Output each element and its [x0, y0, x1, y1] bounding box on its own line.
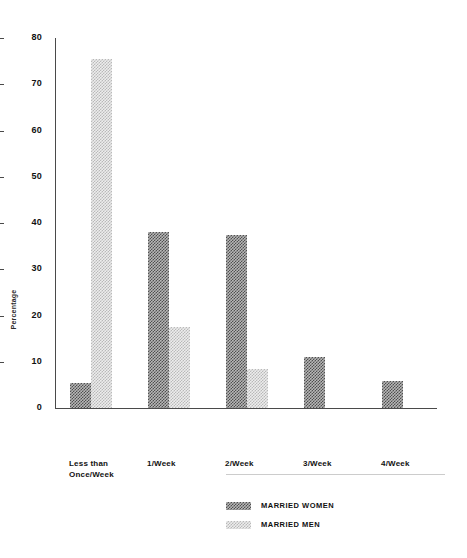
- chart-legend: MARRIED WOMENMARRIED MEN: [226, 496, 446, 534]
- category-label: Less thanOnce/Week: [69, 458, 159, 480]
- y-tick-label: 70: [31, 78, 42, 88]
- y-tick-label: 40: [31, 217, 42, 227]
- category-label: 3/Week: [303, 458, 393, 469]
- category-label: 2/Week: [225, 458, 315, 469]
- light-checker-swatch: [226, 521, 251, 529]
- bar-married-men[interactable]: [247, 369, 268, 408]
- legend-item-label: MARRIED WOMEN: [261, 501, 334, 510]
- y-tick-label: 10: [31, 356, 42, 366]
- bar-chart-figure: Percentage 01020304050607080 Less thanOn…: [0, 0, 467, 558]
- y-tick-mark: [0, 38, 4, 39]
- category-label: 1/Week: [147, 458, 237, 469]
- category-label-line: 4/Week: [381, 458, 467, 469]
- category-label-line: Once/Week: [69, 469, 159, 480]
- bar-married-women[interactable]: [226, 235, 247, 408]
- y-tick-mark: [0, 84, 4, 85]
- legend-separator-rule: [226, 474, 445, 475]
- plot-area: 01020304050607080 Less thanOnce/Week1/We…: [56, 38, 437, 408]
- category-label-line: Less than: [69, 458, 159, 469]
- y-tick-mark: [0, 177, 4, 178]
- y-tick-mark: [0, 269, 4, 270]
- y-tick-label: 50: [31, 171, 42, 181]
- y-tick-label: 0: [37, 402, 42, 412]
- bar-married-women[interactable]: [70, 383, 91, 408]
- category-label-line: 3/Week: [303, 458, 393, 469]
- legend-item-label: MARRIED MEN: [261, 520, 320, 529]
- legend-item[interactable]: MARRIED MEN: [226, 515, 446, 534]
- category-label-line: 2/Week: [225, 458, 315, 469]
- category-label: 4/Week: [381, 458, 467, 469]
- bar-married-women[interactable]: [382, 381, 403, 408]
- bar-married-women[interactable]: [304, 357, 325, 408]
- y-tick-label: 20: [31, 310, 42, 320]
- y-tick-mark: [0, 362, 4, 363]
- y-tick-mark: [0, 316, 4, 317]
- y-axis-line: [55, 38, 56, 409]
- x-axis-line: [55, 408, 437, 409]
- bar-married-women[interactable]: [148, 232, 169, 408]
- legend-item[interactable]: MARRIED WOMEN: [226, 496, 446, 515]
- y-tick-label: 60: [31, 125, 42, 135]
- dark-checker-swatch: [226, 502, 251, 510]
- bar-married-men[interactable]: [91, 59, 112, 408]
- bar-married-men[interactable]: [169, 327, 190, 408]
- category-label-line: 1/Week: [147, 458, 237, 469]
- y-tick-mark: [0, 131, 4, 132]
- y-tick-label: 80: [31, 32, 42, 42]
- y-tick-label: 30: [31, 263, 42, 273]
- y-axis-title: Percentage: [10, 270, 17, 350]
- y-tick-mark: [0, 223, 4, 224]
